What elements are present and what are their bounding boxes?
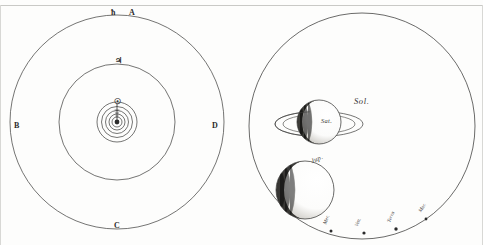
saturn-body <box>275 100 363 144</box>
orbit-diagram-canvas <box>0 0 241 245</box>
saturn-symbol: ħ <box>111 9 115 17</box>
sol-label: Sol. <box>354 97 369 106</box>
engraving-plate: ħ A ♃ ☉ B C D <box>0 0 483 245</box>
planet-size-comparison: Sol. Sat. Jup. Mer. Ven. Terra Mar. <box>241 0 482 245</box>
saturn-label: Sat. <box>321 118 332 125</box>
reference-point-b: B <box>14 122 20 130</box>
orbit-diagram: ħ A ♃ ☉ B C D <box>0 0 241 245</box>
reference-point-d: D <box>212 122 218 130</box>
jupiter-body <box>276 161 334 219</box>
minor-planet-dots <box>330 218 428 235</box>
reference-point-c: C <box>114 222 120 230</box>
center-symbol: ☉ <box>114 98 121 106</box>
dot-terra <box>394 227 397 230</box>
reference-point-a: A <box>129 9 135 17</box>
dot-venus <box>362 231 365 234</box>
dot-mars <box>425 218 428 221</box>
dot-mercury <box>330 230 333 233</box>
planet-size-canvas <box>241 0 483 245</box>
jupiter-symbol: ♃ <box>115 57 122 65</box>
